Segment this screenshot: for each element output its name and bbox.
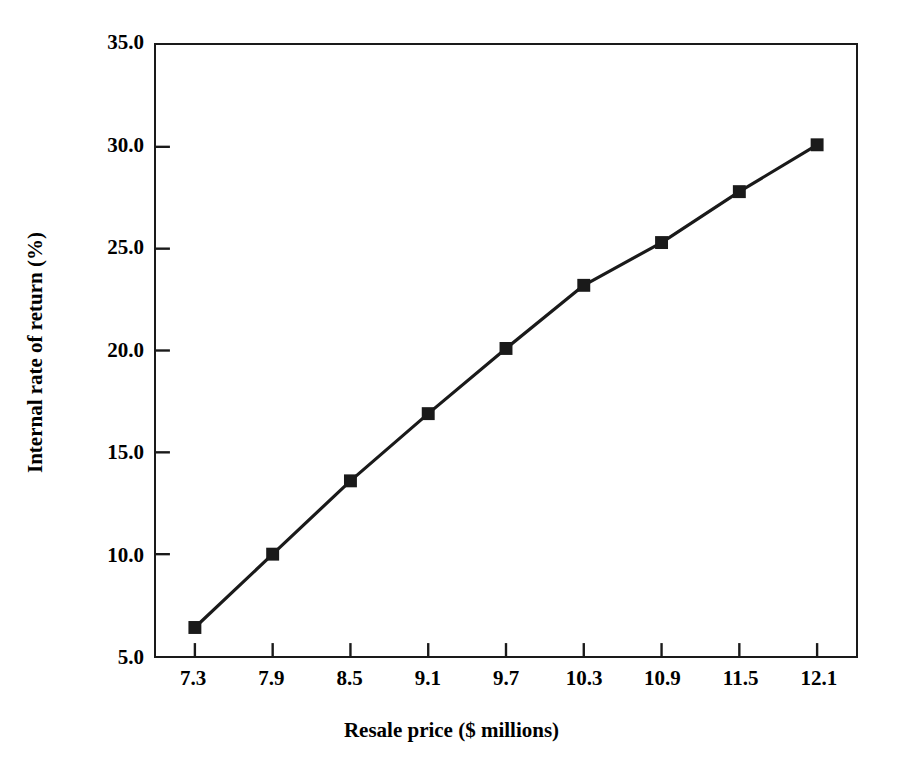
- y-tick-label: 10.0: [107, 545, 144, 566]
- data-point-marker: [422, 407, 435, 420]
- x-tick-label: 9.7: [493, 668, 519, 689]
- data-point-marker: [188, 621, 201, 634]
- y-axis-title: Internal rate of return (%): [23, 143, 48, 563]
- y-tick-label: 5.0: [118, 647, 144, 668]
- y-tick-label: 35.0: [107, 32, 144, 53]
- x-tick-label: 7.9: [258, 668, 284, 689]
- y-tick-label: 15.0: [107, 442, 144, 463]
- x-tick-label: 10.9: [644, 668, 681, 689]
- y-tick-label: 20.0: [107, 340, 144, 361]
- data-point-marker: [733, 185, 746, 198]
- axis-tick-marks: [156, 147, 817, 656]
- data-point-marker: [577, 279, 590, 292]
- data-point-marker: [500, 342, 513, 355]
- x-tick-label: 8.5: [336, 668, 362, 689]
- x-tick-label: 12.1: [801, 668, 838, 689]
- chart-figure: 5.010.015.020.025.030.035.0 Internal rat…: [0, 0, 903, 777]
- x-tick-label: 10.3: [566, 668, 603, 689]
- data-point-marker: [811, 138, 824, 151]
- data-point-marker: [344, 474, 357, 487]
- x-tick-label: 7.3: [180, 668, 206, 689]
- data-point-marker: [266, 548, 279, 561]
- x-axis-title: Resale price ($ millions): [0, 718, 903, 743]
- y-tick-label: 30.0: [107, 135, 144, 156]
- data-series-line: [195, 145, 817, 628]
- plot-area: [154, 43, 858, 658]
- chart-plot-svg: [156, 45, 856, 656]
- x-tick-label: 9.1: [415, 668, 441, 689]
- data-point-marker: [655, 236, 668, 249]
- y-axis-tick-labels: 5.010.015.020.025.030.035.0: [44, 0, 144, 777]
- x-tick-label: 11.5: [723, 668, 759, 689]
- y-tick-label: 25.0: [107, 237, 144, 258]
- data-point-markers: [188, 138, 823, 634]
